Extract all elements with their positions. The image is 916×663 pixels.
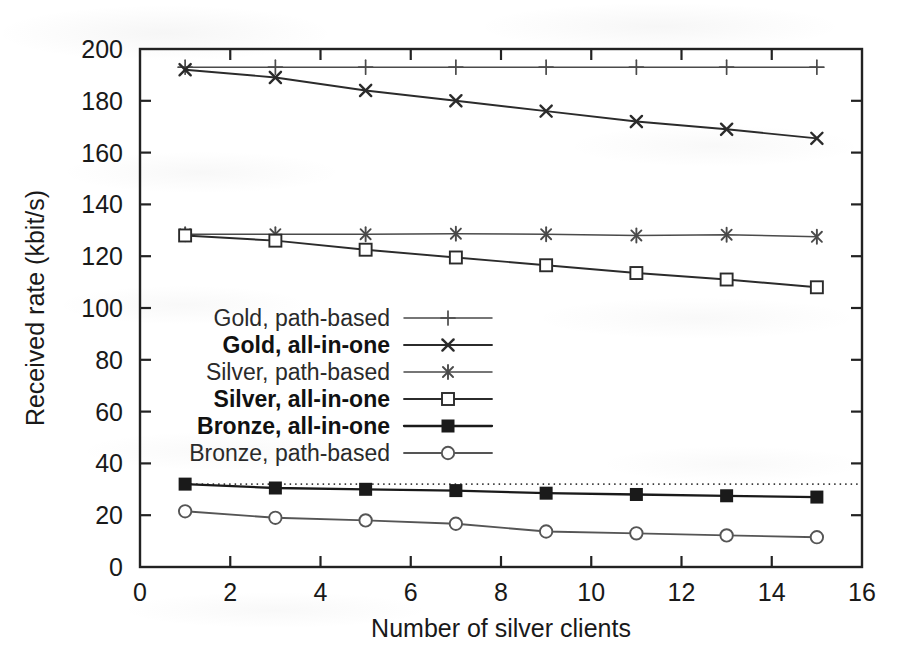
series-bronze-all-in-one [179, 478, 824, 504]
legend-marker-open-square-icon [404, 393, 492, 405]
x-tick-label: 12 [668, 578, 696, 606]
legend-label-gold-path-based: Gold, path-based [214, 305, 390, 331]
y-tick-label: 0 [109, 553, 123, 581]
x-axis-tick-labels: 0246810121416 [133, 578, 876, 606]
y-tick-label: 180 [81, 87, 123, 115]
legend-marker-asterisk-icon [404, 365, 492, 379]
y-tick-label: 200 [81, 35, 123, 63]
legend-label-gold-all-in-one: Gold, all-in-one [223, 332, 390, 358]
x-tick-label: 2 [223, 578, 237, 606]
y-tick-label: 60 [95, 398, 123, 426]
x-tick-label: 8 [494, 578, 508, 606]
chart-legend: Gold, path-basedGold, all-in-oneSilver, … [189, 305, 492, 466]
chart-figure: 020406080100120140160180200 024681012141… [0, 0, 916, 663]
series-bronze-path-based [179, 505, 823, 543]
legend-marker-cross-icon [404, 339, 492, 350]
y-tick-label: 40 [95, 449, 123, 477]
series-gold-path-based [178, 60, 824, 74]
legend-label-bronze-path-based: Bronze, path-based [189, 440, 390, 466]
y-axis-title: Received rate (kbit/s) [21, 190, 49, 426]
y-tick-label: 120 [81, 242, 123, 270]
y-tick-label: 80 [95, 346, 123, 374]
legend-label-silver-all-in-one: Silver, all-in-one [214, 386, 390, 412]
legend-label-silver-path-based: Silver, path-based [206, 359, 390, 385]
x-tick-label: 0 [133, 578, 147, 606]
legend-marker-filled-square-icon [404, 420, 492, 433]
x-tick-label: 10 [577, 578, 605, 606]
x-tick-label: 14 [758, 578, 786, 606]
x-axis-title: Number of silver clients [371, 614, 631, 642]
x-tick-label: 6 [404, 578, 418, 606]
y-tick-label: 20 [95, 501, 123, 529]
y-axis-tick-labels: 020406080100120140160180200 [81, 35, 123, 581]
line-chart: 020406080100120140160180200 024681012141… [0, 0, 916, 663]
legend-label-bronze-all-in-one: Bronze, all-in-one [197, 413, 390, 439]
series-gold-all-in-one [180, 64, 823, 144]
y-tick-label: 160 [81, 139, 123, 167]
legend-marker-open-circle-icon [404, 447, 492, 459]
x-tick-label: 4 [314, 578, 328, 606]
x-tick-label: 16 [848, 578, 876, 606]
y-tick-label: 140 [81, 190, 123, 218]
data-series-group [178, 60, 824, 543]
y-tick-label: 100 [81, 294, 123, 322]
legend-marker-plus-icon [404, 311, 492, 325]
